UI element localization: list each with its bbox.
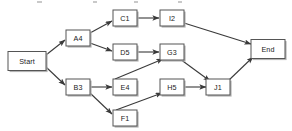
- node-label-a4: A4: [74, 34, 83, 43]
- node-d5[interactable]: D5: [113, 44, 139, 62]
- edge-i2-to-end: [184, 23, 251, 44]
- node-e4[interactable]: E4: [113, 79, 139, 97]
- flowchart-canvas: StartA4B3C1D5E4F1I2G3H5J1End: [0, 0, 292, 131]
- node-f1[interactable]: F1: [113, 110, 139, 128]
- edge-e4-to-g3: [115, 59, 163, 79]
- node-a4[interactable]: A4: [66, 30, 92, 48]
- node-j1[interactable]: J1: [206, 79, 232, 97]
- node-label-g3: G3: [167, 48, 177, 57]
- node-label-d5: D5: [120, 48, 129, 57]
- node-label-h5: H5: [167, 83, 176, 92]
- flowchart-diagram: StartA4B3C1D5E4F1I2G3H5J1End: [0, 0, 292, 131]
- node-label-i2: I2: [169, 14, 175, 23]
- node-b3[interactable]: B3: [66, 79, 92, 97]
- node-end[interactable]: End: [251, 40, 287, 61]
- node-label-c1: C1: [120, 14, 129, 23]
- node-label-end: End: [261, 45, 274, 54]
- node-g3[interactable]: G3: [160, 44, 186, 62]
- node-label-e4: E4: [121, 83, 130, 92]
- node-h5[interactable]: H5: [160, 79, 186, 97]
- edge-a4-to-c1: [90, 21, 112, 33]
- edge-j1-to-end: [228, 57, 253, 81]
- node-label-f1: F1: [121, 114, 130, 123]
- node-label-j1: J1: [214, 83, 222, 92]
- node-i2[interactable]: I2: [160, 10, 186, 28]
- edge-a4-to-d5: [90, 43, 112, 51]
- node-c1[interactable]: C1: [113, 10, 139, 28]
- node-label-start: Start: [19, 57, 35, 66]
- edge-start-to-b3: [46, 67, 65, 85]
- edge-b3-to-f1: [90, 93, 112, 114]
- edge-g3-to-j1: [180, 59, 210, 81]
- nodes-layer: StartA4B3C1D5E4F1I2G3H5J1End: [8, 10, 287, 128]
- node-label-b3: B3: [74, 83, 83, 92]
- edge-start-to-a4: [46, 40, 65, 55]
- node-start[interactable]: Start: [8, 52, 48, 73]
